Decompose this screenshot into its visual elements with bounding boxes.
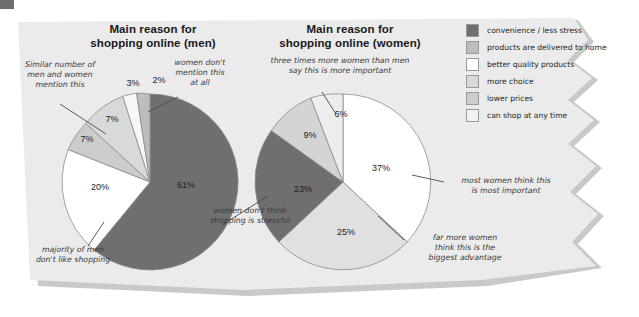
- annotation-men-bottom: majority of men don't like shopping: [14, 245, 132, 265]
- legend-item-quality: better quality products: [466, 56, 636, 73]
- legend-item-label: convenience / less stress: [487, 26, 582, 35]
- chart-title-women: Main reason for shopping online (women): [255, 22, 445, 50]
- legend-item-lower-prices: lower prices: [466, 90, 636, 107]
- pie-value-men-more-choice: 7%: [105, 114, 118, 124]
- legend-swatch-icon: [466, 58, 479, 71]
- legend-item-delivered: products are delivered to home: [466, 39, 636, 56]
- legend-item-convenience: convenience / less stress: [466, 22, 636, 39]
- pie-value-women-any-time: 6%: [334, 109, 347, 119]
- pie-value-men-quality: 20%: [91, 182, 109, 192]
- pie-value-women-more-choice: 9%: [303, 130, 316, 140]
- legend-item-more-choice: more choice: [466, 73, 636, 90]
- pie-chart-women: 37% 25% 23% 9% 6%: [253, 92, 433, 272]
- legend-swatch-icon: [466, 24, 479, 37]
- legend-item-label: can shop at any time: [487, 111, 567, 120]
- pie-value-men-any-time: 3%: [126, 78, 139, 88]
- pie-value-women-quality: 37%: [372, 163, 390, 173]
- annotation-men-top: women don't mention this at all: [152, 58, 248, 88]
- legend-swatch-icon: [466, 41, 479, 54]
- pie-value-men-convenience: 61%: [177, 180, 195, 190]
- corner-marker-icon: [0, 0, 14, 9]
- annotation-women-top: three times more women than men say this…: [258, 56, 422, 76]
- chart-title-men-line1: Main reason for: [58, 22, 248, 36]
- legend-item-label: lower prices: [487, 94, 533, 103]
- legend-item-any-time: can shop at any time: [466, 107, 636, 124]
- annotation-men-left: Similar number of men and women mention …: [8, 60, 112, 90]
- screenshot-root: Main reason for shopping online (men) Ma…: [0, 0, 639, 317]
- legend-swatch-icon: [466, 92, 479, 105]
- annotation-women-left: women don't think shopping is stressful: [196, 206, 304, 226]
- legend-item-label: products are delivered to home: [487, 43, 607, 52]
- pie-value-women-lower-prices: 25%: [337, 227, 355, 237]
- legend-item-label: better quality products: [487, 60, 574, 69]
- pie-value-women-convenience: 23%: [294, 184, 312, 194]
- chart-title-women-line2: shopping online (women): [255, 36, 445, 50]
- legend: convenience / less stress products are d…: [466, 22, 636, 124]
- legend-item-label: more choice: [487, 77, 534, 86]
- legend-swatch-icon: [466, 109, 479, 122]
- legend-swatch-icon: [466, 75, 479, 88]
- pie-value-men-lower-prices: 7%: [80, 134, 93, 144]
- annotation-women-right: most women think this is most important: [448, 176, 564, 196]
- annotation-women-bottom: far more women think this is the biggest…: [410, 233, 520, 263]
- chart-title-women-line1: Main reason for: [255, 22, 445, 36]
- chart-title-men: Main reason for shopping online (men): [58, 22, 248, 50]
- chart-title-men-line2: shopping online (men): [58, 36, 248, 50]
